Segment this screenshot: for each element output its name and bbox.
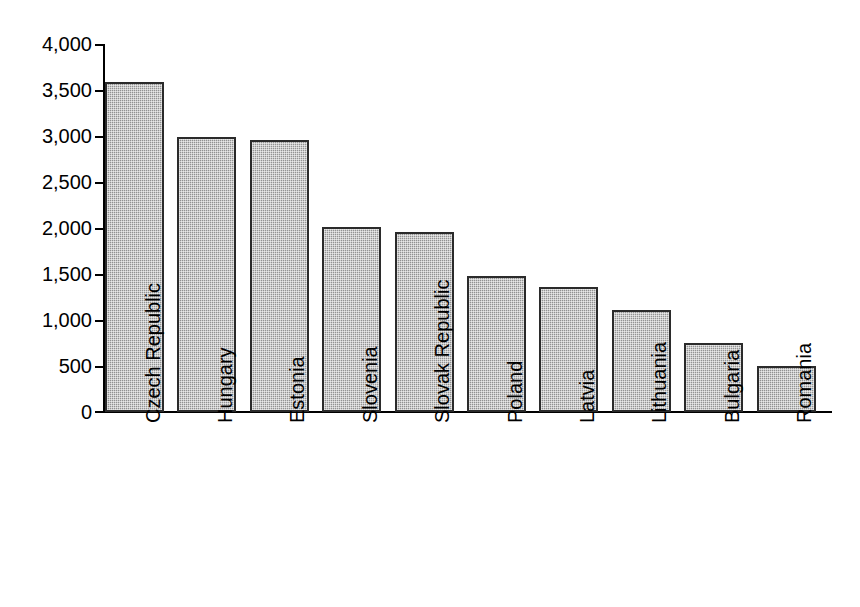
- x-label-slovenia: Slovenia: [360, 346, 380, 423]
- x-label-slovak-republic: Slovak Republic: [432, 280, 452, 423]
- x-label-estonia: Estonia: [287, 356, 307, 423]
- x-label-bulgaria: Bulgaria: [722, 350, 742, 423]
- x-label-czech-republic: Czech Republic: [143, 283, 163, 423]
- x-label-latvia: Latvia: [577, 370, 597, 423]
- x-label-hungary: Hungary: [215, 347, 235, 423]
- x-label-poland: Poland: [505, 361, 525, 423]
- x-axis-category-labels: Czech Republic Hungary Estonia Slovenia …: [0, 0, 860, 607]
- bar-chart: 4,000 3,500 3,000 2,500 2,000 1,500 1,00…: [0, 0, 860, 607]
- x-label-lithuania: Lithuania: [649, 342, 669, 423]
- x-label-romania: Romania: [794, 343, 814, 423]
